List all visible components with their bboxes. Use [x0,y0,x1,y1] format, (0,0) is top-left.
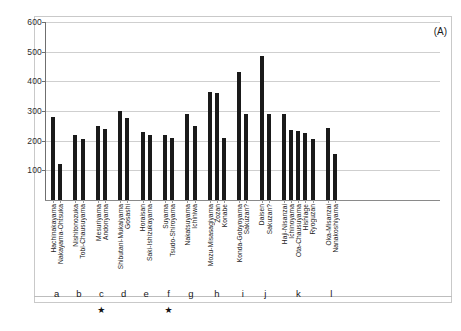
bar [193,126,197,200]
bar [244,114,248,200]
bar [215,93,219,200]
y-tick-label-300: 300 [27,106,42,116]
group-letter-h: h [214,288,219,299]
bar [170,138,174,200]
x-tick-mark [127,200,128,203]
bar-series [45,22,440,200]
x-axis-labels: HachinakayamaNakayama-OhtsukaNishitonozu… [45,204,440,288]
x-axis-label: Ryoguzan [309,204,316,235]
bar [73,135,77,200]
x-axis-label: Hachinakayama [50,204,57,253]
x-tick-mark [187,200,188,203]
x-tick-mark [224,200,225,203]
x-axis-label: Ichiniwa [191,204,198,229]
group-letter-f: f [167,288,170,299]
group-letter-g: g [188,288,193,299]
chart-figure: (A) 100200300400500600 HachinakayamaNaka… [0,0,461,331]
x-tick-mark [246,200,247,203]
bar [267,114,271,200]
group-letter-c: c [99,288,104,299]
bar [237,72,241,200]
star-marker-c: ★ [97,305,105,315]
x-tick-mark [217,200,218,203]
bar [148,135,152,200]
x-tick-mark [305,200,306,203]
bar [185,114,189,200]
x-tick-mark [269,200,270,203]
x-tick-mark [172,200,173,203]
bar [81,139,85,200]
group-star-markers: ★★ [45,305,440,321]
group-letters: abcdefghijkl [45,288,440,304]
bar [125,118,129,200]
bar [303,133,307,200]
x-tick-mark [262,200,263,203]
x-axis-label: Nakayama-Ohtsuka [57,204,64,264]
y-axis-ticks: 100200300400500600 [18,22,42,201]
x-tick-mark [105,200,106,203]
y-tick-label-500: 500 [27,47,42,57]
x-tick-mark [210,200,211,203]
x-tick-mark [143,200,144,203]
x-axis-label: Mozu-Misasagiyama [207,204,214,266]
x-axis-label: Oka-Misanzai [325,204,332,246]
group-letter-e: e [143,288,148,299]
bar [289,130,293,200]
x-axis-label: Zozan [214,204,221,223]
bar [103,129,107,200]
group-letter-i: i [242,288,244,299]
x-axis-label: Ota-Chausuyama [295,204,302,257]
bar [282,114,286,200]
x-tick-mark [75,200,76,203]
x-axis-label: Daisen [258,204,265,225]
x-axis-label: Tsudo-Shiroyama [169,204,176,257]
bar [222,138,226,200]
x-axis-label: Saki-Ishizukayama [146,204,153,261]
x-axis-label: Konabe [221,204,228,227]
y-tick-label-100: 100 [27,165,42,175]
group-letter-l: l [330,288,332,299]
star-marker-f: ★ [165,305,173,315]
bar [260,56,264,200]
x-tick-mark [284,200,285,203]
x-tick-mark [335,200,336,203]
x-tick-mark [60,200,61,203]
x-axis-label: Suyama [162,204,169,229]
x-axis-label: Konda-Gobyoyama [236,204,243,262]
bar [208,92,212,200]
x-axis-label: Sakuzan? [266,204,273,234]
x-axis-label: Gosashi [124,204,131,229]
bar [333,154,337,200]
bar [51,117,55,200]
bar [326,128,330,200]
y-tick-label-600: 600 [27,17,42,27]
x-axis-label: Ichinoyama [288,204,295,239]
x-tick-mark [98,200,99,203]
bar [58,164,62,200]
group-letter-d: d [121,288,126,299]
group-letter-j: j [264,288,266,299]
x-tick-mark [239,200,240,203]
x-tick-mark [291,200,292,203]
x-axis-label: Sakuzan? [243,204,250,234]
x-axis-label: Haji-Nisanzai [281,204,288,244]
x-axis-label: Andonyama [102,204,109,240]
bar [141,132,145,200]
x-tick-mark [53,200,54,203]
x-tick-mark [195,200,196,203]
bar [296,131,300,200]
x-axis-label: Shibutani-Mukaiyama [117,204,124,269]
x-tick-mark [120,200,121,203]
x-tick-mark [298,200,299,203]
x-axis-label: Tobi-Chausuyama [79,204,86,259]
y-tick-label-200: 200 [27,136,42,146]
bar [163,135,167,200]
x-tick-mark [165,200,166,203]
group-letter-k: k [296,288,301,299]
bar [118,111,122,200]
x-axis-label: Mesuriyama [95,204,102,241]
group-letter-b: b [76,288,81,299]
bar [96,126,100,200]
x-axis-label: Nanakoshiyama [332,204,339,253]
y-tick-label-400: 400 [27,76,42,86]
